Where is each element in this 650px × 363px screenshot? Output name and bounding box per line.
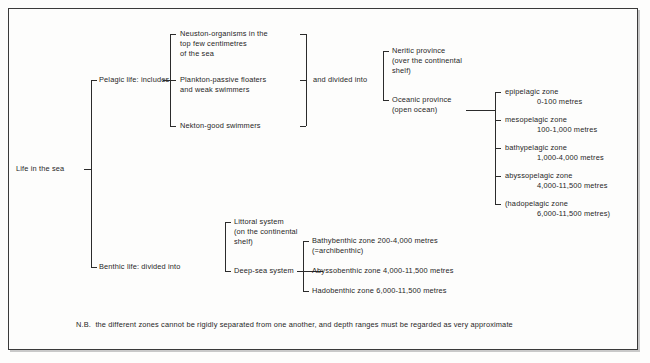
divided-connector-label: and divided into <box>313 75 367 85</box>
root-spine <box>91 80 92 267</box>
benthic-zones-arm-1 <box>303 241 309 242</box>
pelagic-zones-arm-3 <box>495 148 501 149</box>
benthic-zone-hadobenthic: Hadobenthic zone 6,000-11,500 metres <box>312 286 447 296</box>
branch-label-benthic: Benthic life: divided into <box>99 262 181 272</box>
root-label: Life in the sea <box>16 164 64 174</box>
provinces-spine <box>383 51 384 100</box>
pelagic-zone-name-epipelagic: epipelagic zone <box>505 87 559 97</box>
province-oceanic: Oceanic province (open ocean) <box>392 95 452 115</box>
benthic-zone-abyssobenthic: Abyssobenthic zone 4,000-11,500 metres <box>312 266 454 276</box>
footnote-text: N.B. the different zones cannot be rigid… <box>76 320 513 329</box>
benthic-systems-arm-littoral <box>225 222 231 223</box>
pelagic-zones-arm-1 <box>495 92 501 93</box>
pelagic-zone-name-bathypelagic: bathypelagic zone <box>505 143 567 153</box>
benthic-zones-spine <box>303 241 304 291</box>
pelagic-collect-arm-1 <box>300 34 306 35</box>
pelagic-zone-depth-abyssopelagic: 4,000-11,500 metres <box>537 181 608 191</box>
pelagic-zone-name-abyssopelagic: abyssopelagic zone <box>505 171 573 181</box>
pelagic-collect-arm-2 <box>300 80 306 81</box>
benthic-systems-spine <box>225 222 226 271</box>
benthic-system-littoral: Littoral system (on the continental shel… <box>234 217 298 248</box>
benthic-zones-arm-3 <box>303 291 309 292</box>
pelagic-collect-spine <box>306 34 307 126</box>
pelagic-zones-arm-5 <box>495 204 501 205</box>
pelagic-zones-arm-2 <box>495 120 501 121</box>
pelagic-zones-arm-4 <box>495 176 501 177</box>
root-tick <box>84 169 91 170</box>
pelagic-groups-arm-1 <box>170 34 176 35</box>
pelagic-zone-depth-hadopelagic: 6,000-11,500 metres) <box>537 209 610 219</box>
branch-label-pelagic: Pelagic life: includes <box>99 75 169 85</box>
pelagic-zone-depth-mesopelagic: 100-1,000 metres <box>537 125 597 135</box>
oceanic-to-zones-connector <box>466 110 495 111</box>
benthic-system-deepsea: Deep-sea system <box>234 266 294 276</box>
pelagic-groups-arm-3 <box>170 126 176 127</box>
pelagic-zone-depth-bathypelagic: 1,000-4,000 metres <box>537 153 604 163</box>
pelagic-groups-arm-2 <box>170 80 176 81</box>
pelagic-zone-name-hadopelagic: (hadopelagic zone <box>505 199 568 209</box>
province-neritic: Neritic province (over the continental s… <box>392 46 462 77</box>
pelagic-zone-name-mesopelagic: mesopelagic zone <box>505 115 567 125</box>
pelagic-groups-stem <box>163 80 170 81</box>
pelagic-group-nekton: Nekton-good swimmers <box>180 121 261 131</box>
benthic-zones-arm-2 <box>303 271 309 272</box>
benthic-zone-bathybenthic: Bathybenthic zone 200-4,000 metres (=arc… <box>312 236 438 256</box>
marine-life-classification-diagram: Life in the sea Pelagic life: includes B… <box>0 0 650 363</box>
provinces-arm-oceanic <box>383 100 389 101</box>
benthic-systems-arm-deepsea <box>225 271 231 272</box>
root-arm-benthic <box>91 267 97 268</box>
pelagic-group-neuston: Neuston-organisms in the top few centime… <box>180 29 268 60</box>
pelagic-zone-depth-epipelagic: 0-100 metres <box>537 97 582 107</box>
root-arm-pelagic <box>91 80 97 81</box>
pelagic-group-plankton: Plankton-passive floaters and weak swimm… <box>180 75 266 95</box>
provinces-arm-neritic <box>383 51 389 52</box>
pelagic-collect-arm-3 <box>300 126 306 127</box>
